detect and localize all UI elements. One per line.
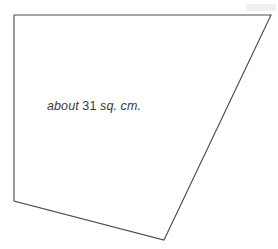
scan-smudge-artifact (246, 4, 276, 11)
area-label-value: 31 (82, 99, 96, 113)
area-label-units: sq. cm. (100, 99, 141, 113)
area-label: about 31 sq. cm. (47, 99, 141, 113)
quadrilateral-diagram (0, 0, 278, 249)
figure-canvas: about 31 sq. cm. (0, 0, 278, 249)
quadrilateral-shape (14, 15, 271, 240)
area-label-lead-word: about (47, 99, 79, 113)
